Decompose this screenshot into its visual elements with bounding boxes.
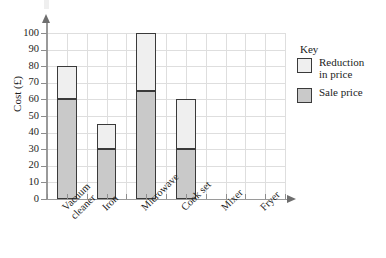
y-axis-tick — [41, 199, 47, 200]
y-axis-tick — [41, 66, 47, 67]
bar-segment-sale-price — [136, 91, 156, 199]
y-axis-tick — [41, 33, 47, 34]
y-axis-tick-label: 100 — [6, 28, 39, 39]
legend-label-line2: in price — [319, 68, 352, 80]
y-axis-tick-label: 0 — [6, 194, 39, 205]
gridline-vertical — [87, 33, 88, 199]
x-axis-tick — [206, 194, 207, 199]
y-axis-tick-label-text: 100 — [9, 28, 39, 39]
bar-cook-set — [176, 33, 196, 199]
legend-label-sale-price: Sale price — [319, 87, 363, 99]
legend: Key Reduction in price Sale price — [297, 43, 383, 110]
y-axis-tick — [41, 50, 47, 51]
gridline-vertical — [226, 33, 227, 199]
x-axis-tick — [47, 194, 48, 199]
y-axis-tick-label: 30 — [6, 144, 39, 155]
y-axis-tick-label-text: 20 — [9, 160, 39, 171]
legend-item-sale-price: Sale price — [297, 87, 383, 103]
y-axis-arrow — [42, 14, 50, 23]
y-axis-tick-label-text: 10 — [9, 177, 39, 188]
y-axis-tick-label: 10 — [6, 177, 39, 188]
y-axis-tick-label: 20 — [6, 160, 39, 171]
chart-screenshot: 0102030405060708090100 Cost (£) Vacuumcl… — [0, 0, 386, 258]
bar-iron — [97, 33, 117, 199]
gridline-vertical — [245, 33, 246, 199]
legend-label-line1: Sale price — [319, 86, 363, 98]
gridline-vertical — [265, 33, 266, 199]
bar-segment-reduction-in-price — [57, 66, 77, 99]
bar-microwave — [136, 33, 156, 199]
y-axis-tick — [41, 83, 47, 84]
bar-segment-reduction-in-price — [176, 99, 196, 149]
x-axis-tick — [166, 194, 167, 199]
y-axis-tick — [41, 166, 47, 167]
y-axis-tick — [41, 133, 47, 134]
x-axis-tick — [126, 194, 127, 199]
bar-segment-sale-price — [57, 99, 77, 199]
bar-segment-sale-price — [97, 149, 117, 199]
legend-swatch-reduction-in-price — [297, 58, 312, 73]
y-axis-tick — [41, 149, 47, 150]
gridlines — [47, 33, 285, 199]
legend-label-reduction-in-price: Reduction in price — [319, 57, 364, 80]
legend-swatch-sale-price — [297, 88, 312, 103]
legend-item-reduction-in-price: Reduction in price — [297, 57, 383, 80]
legend-title: Key — [300, 43, 383, 55]
plot-area — [47, 33, 285, 199]
bar-segment-reduction-in-price — [136, 33, 156, 91]
legend-label-line1: Reduction — [319, 56, 364, 68]
gridline-vertical — [126, 33, 127, 199]
gridline-vertical — [166, 33, 167, 199]
y-axis-title: Cost (£) — [11, 54, 23, 134]
y-axis-tick — [41, 116, 47, 117]
bar-vacuum-cleaner — [57, 33, 77, 199]
y-axis-tick-label-text: 0 — [9, 194, 39, 205]
bar-segment-reduction-in-price — [97, 124, 117, 149]
y-axis-tick-label-text: 30 — [9, 144, 39, 155]
x-axis-arrow — [287, 195, 296, 203]
gridline-vertical — [285, 33, 286, 199]
gridline-vertical — [206, 33, 207, 199]
x-axis-tick — [285, 194, 286, 199]
top-edge-artifact — [44, 0, 49, 9]
y-axis-tick — [41, 182, 47, 183]
y-axis-tick — [41, 99, 47, 100]
